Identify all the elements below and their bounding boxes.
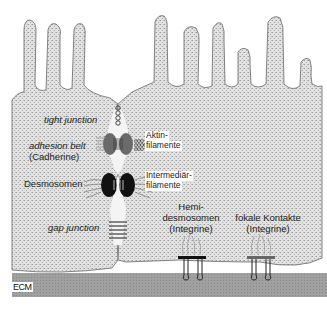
- label-fokal-2: (Integrine): [228, 223, 308, 234]
- label-hemi-3: (Integrine): [158, 223, 224, 234]
- label-gap-junction: gap junction: [48, 222, 99, 233]
- label-fokal-1: fokale Kontakte: [228, 212, 308, 223]
- label-tight-junction: tight junction: [44, 114, 97, 125]
- label-adhesion-belt: adhesion belt: [29, 140, 86, 151]
- label-intermed-2: filamente: [145, 181, 182, 191]
- label-ecm: ECM: [12, 282, 33, 292]
- ecm-layer: [12, 273, 327, 297]
- label-cadherine: (Cadherine): [29, 151, 79, 162]
- label-desmosomen: Desmosomen: [24, 178, 83, 189]
- label-aktin-2: filamente: [145, 141, 182, 151]
- label-hemi-2: desmosomen: [158, 212, 224, 223]
- label-hemi-1: Hemi-: [158, 201, 224, 212]
